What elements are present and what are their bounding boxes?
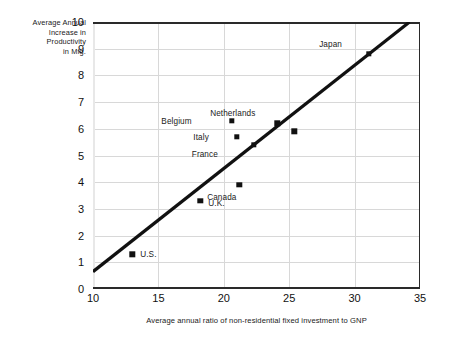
data-point-marker bbox=[275, 121, 280, 126]
y-tick-6: 6 bbox=[62, 123, 84, 135]
data-point-marker bbox=[237, 182, 242, 187]
trend-line bbox=[93, 22, 420, 289]
data-point-label: Canada bbox=[207, 193, 236, 202]
data-point-label: Italy bbox=[193, 133, 209, 142]
data-point-marker bbox=[229, 118, 234, 123]
y-axis-title-line-2: Increase in bbox=[2, 28, 86, 38]
data-point-marker bbox=[234, 134, 239, 139]
y-tick-2: 2 bbox=[62, 230, 84, 242]
plot-area: U.S.U.K.CanadaItalyFranceBelgiumNetherla… bbox=[93, 22, 420, 289]
data-point-marker bbox=[292, 129, 297, 134]
data-point-marker bbox=[251, 142, 256, 147]
data-point-marker bbox=[366, 51, 371, 56]
data-point-marker bbox=[130, 252, 135, 257]
y-tick-4: 4 bbox=[62, 176, 84, 188]
x-tick-10: 10 bbox=[78, 292, 108, 304]
y-tick-8: 8 bbox=[62, 69, 84, 81]
data-point-label: Japan bbox=[319, 40, 342, 49]
data-point-label: Netherlands bbox=[210, 109, 255, 118]
x-axis-title: Average annual ratio of non-residential … bbox=[93, 316, 420, 325]
y-tick-5: 5 bbox=[62, 150, 84, 162]
x-tick-25: 25 bbox=[274, 292, 304, 304]
scatter-chart: Average Annual Increase in Productivity … bbox=[0, 0, 452, 344]
data-point-label: France bbox=[192, 150, 218, 159]
y-tick-9: 9 bbox=[62, 43, 84, 55]
y-tick-1: 1 bbox=[62, 256, 84, 268]
x-tick-35: 35 bbox=[405, 292, 435, 304]
data-point-label: Belgium bbox=[161, 117, 191, 126]
x-tick-20: 20 bbox=[209, 292, 239, 304]
data-point-label: U.S. bbox=[140, 250, 156, 259]
x-tick-15: 15 bbox=[143, 292, 173, 304]
x-tick-30: 30 bbox=[340, 292, 370, 304]
data-point-marker bbox=[198, 198, 203, 203]
y-tick-10: 10 bbox=[62, 16, 84, 28]
y-tick-7: 7 bbox=[62, 96, 84, 108]
y-tick-3: 3 bbox=[62, 203, 84, 215]
